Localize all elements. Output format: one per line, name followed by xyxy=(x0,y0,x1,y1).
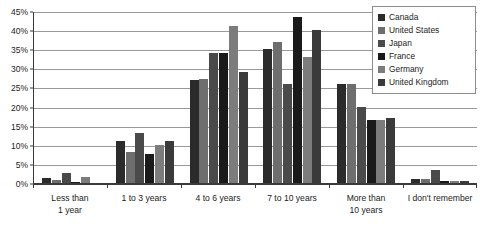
legend-label: United Kingdom xyxy=(389,78,449,86)
bar xyxy=(357,107,366,183)
bar xyxy=(116,141,125,183)
bar xyxy=(209,53,218,183)
bar xyxy=(190,80,199,183)
bar-group xyxy=(34,12,108,183)
x-tick-mark xyxy=(403,184,404,188)
bar xyxy=(229,26,238,183)
bar xyxy=(293,17,302,183)
legend-item[interactable]: France xyxy=(378,50,470,63)
x-tick-mark xyxy=(329,184,330,188)
x-tick-mark xyxy=(255,184,256,188)
y-tick-label: 35% xyxy=(11,46,28,55)
bar-group xyxy=(182,12,256,183)
x-axis-label: 1 to 3 years xyxy=(107,184,181,227)
legend-swatch-icon xyxy=(378,27,385,34)
bar xyxy=(347,84,356,183)
bar xyxy=(303,57,312,183)
bar xyxy=(440,181,449,183)
bar xyxy=(52,180,61,183)
x-tick-mark xyxy=(181,184,182,188)
legend-item[interactable]: Germany xyxy=(378,63,470,76)
legend-swatch-icon xyxy=(378,66,385,73)
y-tick-label: 20% xyxy=(11,103,28,112)
y-tick-label: 30% xyxy=(11,65,28,74)
x-tick-mark xyxy=(33,184,34,188)
bar xyxy=(283,84,292,183)
legend-label: France xyxy=(389,52,415,60)
bar xyxy=(165,141,174,183)
bar xyxy=(155,145,164,183)
x-axis: Less than1 year1 to 3 years4 to 6 years7… xyxy=(33,184,477,227)
legend-item[interactable]: United States xyxy=(378,24,470,37)
legend-item[interactable]: United Kingdom xyxy=(378,76,470,89)
legend-swatch-icon xyxy=(378,53,385,60)
x-tick-mark xyxy=(107,184,108,188)
legend-label: United States xyxy=(389,26,439,34)
y-tick-label: 5% xyxy=(16,161,28,170)
y-tick-label: 15% xyxy=(11,122,28,131)
bar-group xyxy=(255,12,329,183)
bar xyxy=(219,53,228,183)
legend-item[interactable]: Canada xyxy=(378,11,470,24)
bar xyxy=(431,170,440,183)
y-tick-label: 25% xyxy=(11,84,28,93)
legend-label: Canada xyxy=(389,13,418,21)
bar xyxy=(376,120,385,183)
y-tick-label: 45% xyxy=(11,8,28,17)
y-axis: 0%5%10%15%20%25%30%35%40%45% xyxy=(0,0,33,184)
bar xyxy=(450,181,459,183)
bar xyxy=(145,154,154,183)
bar xyxy=(62,173,71,183)
x-axis-label-line: 4 to 6 years xyxy=(181,193,255,205)
bar xyxy=(42,178,51,183)
bar xyxy=(421,179,430,183)
bar-group xyxy=(108,12,182,183)
legend: CanadaUnited StatesJapanFranceGermanyUni… xyxy=(372,6,476,94)
bar xyxy=(411,179,420,183)
bar xyxy=(199,79,208,183)
x-axis-label-line: I don't remember xyxy=(403,193,477,205)
x-axis-label: 7 to 10 years xyxy=(255,184,329,227)
bar xyxy=(263,49,272,183)
bar xyxy=(126,152,135,183)
legend-label: Japan xyxy=(389,39,412,47)
y-tick-label: 10% xyxy=(11,142,28,151)
y-tick-label: 0% xyxy=(16,180,28,189)
legend-label: Germany xyxy=(389,65,423,73)
x-axis-label: I don't remember xyxy=(403,184,477,227)
x-axis-label-line: Less than xyxy=(33,193,107,205)
bar xyxy=(337,84,346,183)
bar xyxy=(71,182,80,183)
x-axis-label: Less than1 year xyxy=(33,184,107,227)
bar xyxy=(81,177,90,183)
bar xyxy=(312,30,321,183)
x-axis-label-line: More than xyxy=(329,193,403,205)
legend-swatch-icon xyxy=(378,40,385,47)
legend-swatch-icon xyxy=(378,79,385,86)
bar xyxy=(367,120,376,183)
bar xyxy=(239,72,248,183)
legend-item[interactable]: Japan xyxy=(378,37,470,50)
y-tick-label: 40% xyxy=(11,27,28,36)
x-axis-label-line: 1 to 3 years xyxy=(107,193,181,205)
bar xyxy=(460,181,469,183)
bar xyxy=(273,42,282,183)
x-axis-label-line: 10 years xyxy=(329,205,403,217)
x-tick-mark xyxy=(476,184,477,188)
legend-swatch-icon xyxy=(378,14,385,21)
bar-chart: 0%5%10%15%20%25%30%35%40%45% Less than1 … xyxy=(0,0,482,227)
x-axis-label-line: 7 to 10 years xyxy=(255,193,329,205)
x-axis-label-line: 1 year xyxy=(33,205,107,217)
x-axis-label: 4 to 6 years xyxy=(181,184,255,227)
bar xyxy=(386,118,395,183)
x-axis-label: More than10 years xyxy=(329,184,403,227)
bar xyxy=(135,133,144,183)
